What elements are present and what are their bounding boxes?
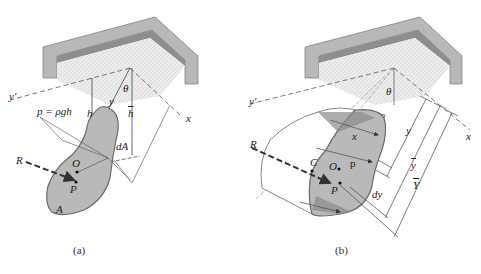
diagram-canvas xyxy=(0,0,481,274)
point-c-b xyxy=(310,169,313,172)
caption-b: (b) xyxy=(335,244,348,256)
label-theta-a: θ xyxy=(123,83,128,94)
panel-b xyxy=(250,17,470,237)
label-y-b: y xyxy=(406,125,411,136)
label-x-axis-b: x xyxy=(466,131,471,142)
label-theta-b: θ xyxy=(386,86,391,97)
label-x-b: x xyxy=(352,131,357,142)
point-o-b xyxy=(337,167,340,170)
label-P-b: P xyxy=(331,185,338,196)
label-dA-a: dA xyxy=(116,141,128,152)
label-x-a: x xyxy=(186,113,191,124)
label-h-bar-a: h xyxy=(128,108,134,119)
label-y-bar-b: y xyxy=(411,160,416,171)
tank-a xyxy=(43,17,198,105)
point-p-b xyxy=(338,181,341,184)
label-C-b: C xyxy=(310,157,317,168)
label-y-prime-b: y′ xyxy=(249,96,256,107)
label-A-a: A xyxy=(56,204,63,215)
tank-b xyxy=(305,17,462,105)
label-R-b: R xyxy=(250,139,257,150)
label-y-prime-a: y′ xyxy=(9,91,16,102)
plate-a xyxy=(47,107,119,215)
label-P-a: P xyxy=(70,184,77,195)
label-Y-bar-b: Y xyxy=(413,180,419,191)
caption-a: (a) xyxy=(73,244,85,256)
point-o-a xyxy=(75,170,78,173)
label-O-a: O xyxy=(72,158,80,169)
label-R-a: R xyxy=(16,155,23,166)
label-y-a: y xyxy=(109,96,114,107)
label-O-b: O xyxy=(329,161,337,172)
label-pressure-a: p = ρgh xyxy=(37,106,72,117)
label-h-a: h xyxy=(87,108,93,119)
label-dy-b: dy xyxy=(372,189,382,200)
label-p-b: p xyxy=(350,158,356,169)
